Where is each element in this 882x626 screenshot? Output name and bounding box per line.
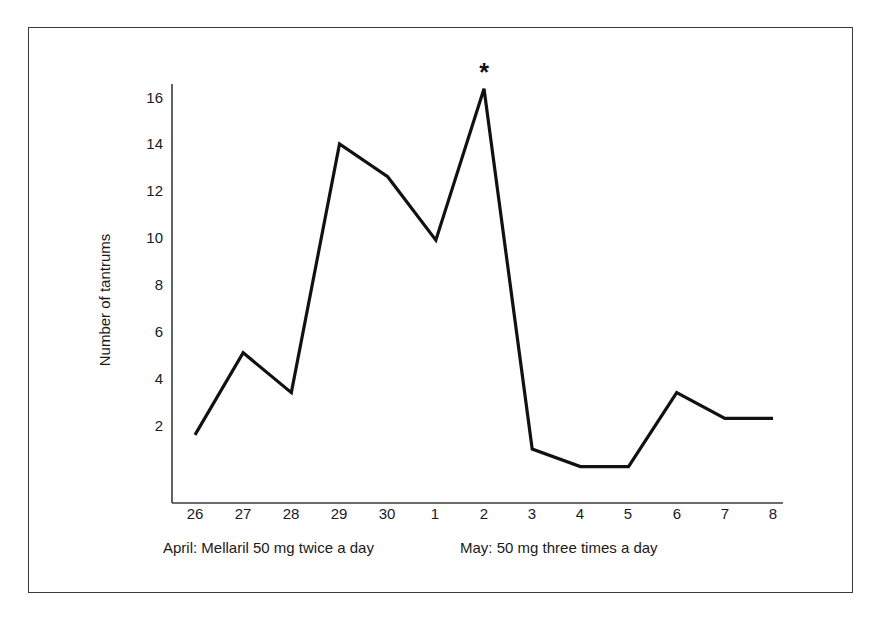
peak-asterisk-marker: *: [479, 58, 489, 86]
tantrum-series-line: [195, 89, 773, 467]
y-tick-label-16: 16: [146, 89, 163, 106]
x-tick-label-7: 3: [528, 505, 536, 522]
figure-root: 16 14 12 10 8 6 4 2 Number of tantrums 2…: [0, 0, 882, 626]
caption-april: April: Mellaril 50 mg twice a day: [163, 539, 374, 556]
x-tick-label-4: 30: [379, 505, 396, 522]
x-tick-label-9: 5: [624, 505, 632, 522]
x-tick-label-8: 4: [576, 505, 584, 522]
x-tick-label-0: 26: [187, 505, 204, 522]
y-tick-label-6: 6: [155, 323, 163, 340]
x-tick-label-11: 7: [721, 505, 729, 522]
y-axis-title: Number of tantrums: [96, 234, 113, 367]
x-tick-label-1: 27: [235, 505, 252, 522]
y-tick-label-2: 2: [155, 417, 163, 434]
y-tick-label-12: 12: [146, 182, 163, 199]
x-tick-label-6: 2: [480, 505, 488, 522]
y-tick-label-4: 4: [155, 370, 163, 387]
x-tick-label-5: 1: [431, 505, 439, 522]
y-tick-label-14: 14: [146, 135, 163, 152]
caption-may: May: 50 mg three times a day: [460, 539, 658, 556]
x-tick-label-12: 8: [769, 505, 777, 522]
y-tick-label-10: 10: [146, 229, 163, 246]
x-tick-label-10: 6: [673, 505, 681, 522]
x-tick-label-3: 29: [331, 505, 348, 522]
x-tick-label-2: 28: [283, 505, 300, 522]
y-tick-label-8: 8: [155, 276, 163, 293]
line-chart: 16 14 12 10 8 6 4 2 Number of tantrums 2…: [0, 0, 882, 626]
